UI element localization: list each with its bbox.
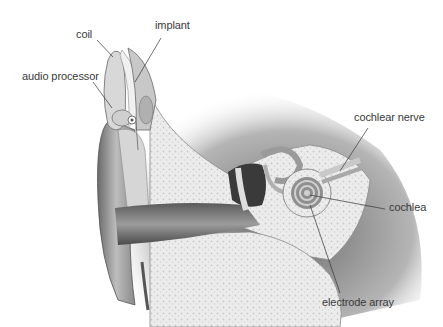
label-cochlear-nerve: cochlear nerve	[354, 111, 425, 123]
label-cochlea: cochlea	[389, 201, 426, 213]
leader-coil	[97, 40, 113, 57]
label-coil: coil	[76, 28, 92, 40]
cochlear-implant-illustration	[0, 0, 443, 327]
label-audio-processor: audio processor	[22, 70, 99, 82]
label-electrode-array: electrode array	[322, 296, 394, 308]
label-implant: implant	[155, 19, 190, 31]
